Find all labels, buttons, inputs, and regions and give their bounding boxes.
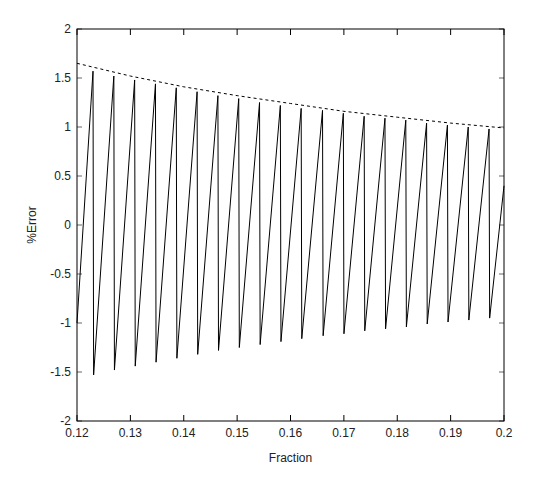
x-axis: 0.120.130.140.150.160.170.180.190.2 — [65, 29, 512, 440]
y-tick-label: -1.5 — [50, 365, 71, 379]
envelope-dashed-line — [77, 63, 504, 128]
x-tick-label: 0.2 — [496, 426, 513, 440]
y-tick-label: 1 — [64, 120, 71, 134]
error-sawtooth-line — [77, 71, 504, 375]
x-axis-label: Fraction — [269, 451, 312, 465]
y-tick-label: 0.5 — [54, 169, 71, 183]
y-tick-label: 2 — [64, 22, 71, 36]
y-axis-label: %Error — [25, 206, 39, 243]
x-tick-label: 0.13 — [119, 426, 143, 440]
axes-frame — [77, 29, 504, 421]
x-tick-label: 0.15 — [225, 426, 249, 440]
y-axis: -2-1.5-1-0.500.511.52 — [50, 22, 504, 428]
y-tick-label: -1 — [60, 316, 71, 330]
x-tick-label: 0.18 — [386, 426, 410, 440]
x-tick-label: 0.14 — [172, 426, 196, 440]
y-tick-label: 0 — [64, 218, 71, 232]
x-tick-label: 0.12 — [65, 426, 89, 440]
chart: 0.120.130.140.150.160.170.180.190.2 -2-1… — [0, 0, 542, 484]
y-tick-label: -0.5 — [50, 267, 71, 281]
x-tick-label: 0.19 — [439, 426, 463, 440]
x-tick-label: 0.16 — [279, 426, 303, 440]
y-tick-label: -2 — [60, 414, 71, 428]
x-tick-label: 0.17 — [332, 426, 356, 440]
y-tick-label: 1.5 — [54, 71, 71, 85]
